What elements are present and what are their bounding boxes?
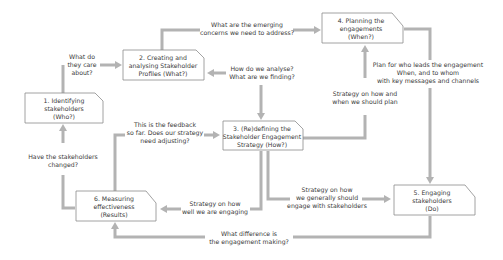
node-engaging-stakeholders[interactable]: 5. Engaging stakeholders (Do) bbox=[394, 185, 475, 215]
svg-text:the engagement making?: the engagement making? bbox=[209, 238, 289, 246]
svg-text:4. Planning the: 4. Planning the bbox=[338, 17, 385, 25]
stakeholder-engagement-diagram: 1. Identifying stakeholders (Who?) 2. Cr… bbox=[0, 0, 503, 260]
node-measuring-effectiveness[interactable]: 6. Measuring effectiveness (Results) bbox=[76, 191, 156, 221]
node-planning-engagements[interactable]: 4. Planning the engagements (When?) bbox=[322, 13, 403, 43]
svg-text:engagements: engagements bbox=[340, 25, 383, 33]
node-creating-profiles[interactable]: 2. Creating and analysing Stakeholder Pr… bbox=[123, 50, 204, 80]
svg-text:Plan for who leads the engagem: Plan for who leads the engagement bbox=[373, 61, 484, 69]
label-plan-who-leads: Plan for who leads the engagement When, … bbox=[373, 61, 484, 85]
svg-text:about?: about? bbox=[71, 69, 92, 76]
svg-text:Strategy on how: Strategy on how bbox=[190, 200, 241, 208]
svg-text:6. Measuring: 6. Measuring bbox=[94, 195, 134, 203]
svg-text:Strategy on how and: Strategy on how and bbox=[333, 90, 398, 98]
label-emerging-concerns: What are the emerging concerns we need t… bbox=[200, 21, 294, 36]
svg-text:(Who?): (Who?) bbox=[53, 113, 75, 120]
node-defining-strategy[interactable]: 3. (Re)defining the Stakeholder Engageme… bbox=[223, 121, 303, 150]
svg-text:when we should plan: when we should plan bbox=[332, 98, 397, 106]
svg-text:1. Identifying: 1. Identifying bbox=[44, 97, 85, 105]
svg-text:concerns we need to address?: concerns we need to address? bbox=[200, 29, 294, 36]
svg-text:Stakeholder Engagement: Stakeholder Engagement bbox=[223, 133, 302, 141]
label-what-difference: What difference is the engagement making… bbox=[209, 230, 289, 246]
svg-text:so far. Does our strategy: so far. Does our strategy bbox=[127, 129, 204, 137]
svg-text:they care: they care bbox=[67, 61, 96, 69]
svg-text:3. (Re)defining the: 3. (Re)defining the bbox=[233, 125, 291, 133]
svg-text:stakeholders: stakeholders bbox=[44, 105, 84, 112]
label-what-do-they-care-about: What do they care about? bbox=[67, 53, 96, 76]
label-strategy-generally-engage: Strategy on how we generally should enga… bbox=[287, 186, 367, 210]
svg-text:stakeholders: stakeholders bbox=[412, 197, 452, 204]
svg-text:well we are engaging: well we are engaging bbox=[182, 208, 248, 216]
svg-text:analysing Stakeholder: analysing Stakeholder bbox=[129, 62, 198, 70]
svg-text:What difference is: What difference is bbox=[221, 230, 277, 237]
svg-text:How do we analyse?: How do we analyse? bbox=[230, 65, 293, 73]
svg-text:This is the feedback: This is the feedback bbox=[133, 121, 196, 128]
svg-text:changed?: changed? bbox=[48, 161, 78, 169]
svg-text:Strategy (How?): Strategy (How?) bbox=[237, 141, 287, 149]
svg-text:2. Creating and: 2. Creating and bbox=[139, 54, 187, 62]
svg-text:Strategy on how: Strategy on how bbox=[302, 186, 353, 194]
svg-text:(When?): (When?) bbox=[348, 33, 374, 40]
label-stakeholders-changed: Have the stakeholders changed? bbox=[28, 153, 98, 169]
label-how-do-we-analyse: How do we analyse? What are we finding? bbox=[229, 65, 295, 81]
svg-text:(Results): (Results) bbox=[100, 211, 127, 218]
svg-text:5. Engaging: 5. Engaging bbox=[414, 189, 451, 197]
label-strategy-how-when-plan: Strategy on how and when we should plan bbox=[332, 90, 397, 106]
svg-text:effectiveness: effectiveness bbox=[93, 203, 134, 210]
svg-text:we generally should: we generally should bbox=[296, 194, 358, 202]
label-strategy-well-engaging: Strategy on how well we are engaging bbox=[182, 200, 248, 216]
svg-text:When, and to whom: When, and to whom bbox=[397, 69, 459, 76]
svg-text:What do: What do bbox=[69, 53, 95, 60]
svg-text:What are we finding?: What are we finding? bbox=[229, 73, 295, 81]
svg-text:Profiles (What?): Profiles (What?) bbox=[139, 70, 188, 77]
svg-text:What are the emerging: What are the emerging bbox=[211, 21, 283, 29]
label-feedback-so-far: This is the feedback so far. Does our st… bbox=[127, 121, 204, 145]
connector-planning-to-engaging bbox=[404, 29, 434, 184]
svg-text:engage with stakeholders: engage with stakeholders bbox=[287, 202, 367, 210]
svg-text:need adjusting?: need adjusting? bbox=[140, 137, 189, 145]
node-identifying-stakeholders[interactable]: 1. Identifying stakeholders (Who?) bbox=[25, 93, 103, 123]
svg-text:(Do): (Do) bbox=[425, 205, 438, 212]
svg-text:Have the stakeholders: Have the stakeholders bbox=[28, 153, 98, 160]
svg-text:with key messages and channels: with key messages and channels bbox=[377, 77, 479, 85]
